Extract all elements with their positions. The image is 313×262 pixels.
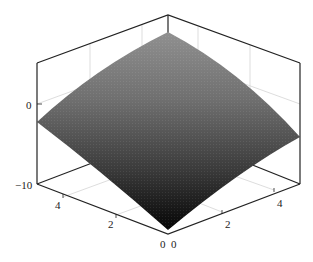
- left-axis-tick-4: 4: [55, 199, 61, 211]
- left-axis-tick-0: 0: [160, 238, 166, 250]
- right-axis-tick-4: 4: [277, 197, 283, 209]
- surface-plot: 0 −10 4 2 0 0 2 4: [0, 0, 313, 262]
- right-axis-tick-0: 0: [171, 238, 177, 250]
- right-axis-tick-2: 2: [225, 218, 231, 230]
- z-tick-label-neg10: −10: [15, 179, 33, 191]
- z-tick-label-0: 0: [26, 99, 32, 111]
- left-axis-tick-2: 2: [108, 218, 114, 230]
